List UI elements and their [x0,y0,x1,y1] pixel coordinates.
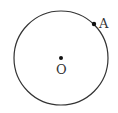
point-a-dot [92,22,96,26]
point-o-label: O [56,62,67,77]
point-a-label: A [98,16,109,31]
point-o-dot [59,56,63,60]
circle-diagram: A O [0,0,118,113]
